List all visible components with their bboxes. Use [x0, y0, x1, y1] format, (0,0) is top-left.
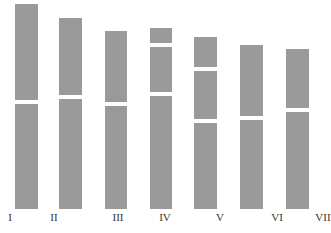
bar-segment [150, 96, 172, 209]
bar-segment [59, 99, 82, 209]
bar-segment [105, 106, 127, 209]
bar-segment [240, 120, 263, 209]
bar-segment [194, 71, 217, 119]
bar-segment [15, 104, 38, 209]
bar-label: IV [159, 211, 171, 223]
bar-label: III [113, 211, 124, 223]
bar-label: VII [315, 211, 330, 223]
bar-segment [286, 112, 309, 209]
bar-label: VI [271, 211, 283, 223]
bar-label: V [216, 211, 224, 223]
bar-label: II [50, 211, 57, 223]
bar-segment [15, 4, 38, 100]
bar-segment [150, 47, 172, 92]
bar-label: I [8, 211, 12, 223]
bar-segment [194, 123, 217, 209]
bar-segment [105, 31, 127, 102]
bar-segment [286, 49, 309, 108]
bar-segment [150, 28, 172, 43]
bar-segment [59, 18, 82, 95]
bar-segment [240, 45, 263, 116]
bar-segment [194, 37, 217, 67]
